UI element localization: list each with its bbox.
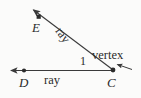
- angle-number-label: 1: [80, 55, 86, 67]
- vertex-annotation-label: vertex: [92, 49, 123, 62]
- point-label-c: C: [107, 76, 116, 89]
- geometry-figure: E D C 1 ray ray vertex: [0, 0, 141, 98]
- point-c-dot: [111, 68, 116, 73]
- point-d-dot: [22, 68, 26, 72]
- point-label-e: E: [32, 21, 40, 34]
- point-label-d: D: [19, 76, 28, 89]
- ray-label-horizontal: ray: [44, 74, 60, 87]
- point-e-dot: [37, 15, 41, 19]
- vertex-pointer-arrow: [118, 65, 133, 70]
